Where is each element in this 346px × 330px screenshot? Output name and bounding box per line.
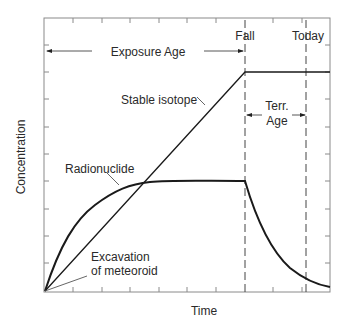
x-ticks-bottom — [73, 287, 302, 292]
concentration-time-diagram: Fall Today Exposure Age Terr. Age Stable… — [0, 0, 346, 330]
stable-isotope-label: Stable isotope — [121, 93, 197, 107]
radionuclide-label: Radionuclide — [65, 162, 135, 176]
y-ticks-right — [325, 45, 330, 263]
terr-age-label-line1: Terr. — [265, 99, 288, 113]
exposure-age-label: Exposure Age — [111, 45, 186, 59]
terr-age-label-line2: Age — [266, 114, 288, 128]
y-axis-label: Concentration — [14, 120, 28, 195]
x-axis-label: Time — [191, 304, 218, 318]
today-label: Today — [292, 29, 324, 43]
excavation-label-line1: Excavation — [91, 250, 150, 264]
x-ticks-top — [73, 18, 302, 23]
stable-isotope-leader — [197, 97, 205, 105]
plot-frame — [44, 18, 330, 292]
excavation-label-line2: of meteoroid — [91, 264, 158, 278]
y-ticks-left — [44, 45, 49, 263]
radionuclide-curve — [45, 181, 330, 291]
fall-label: Fall — [235, 29, 254, 43]
